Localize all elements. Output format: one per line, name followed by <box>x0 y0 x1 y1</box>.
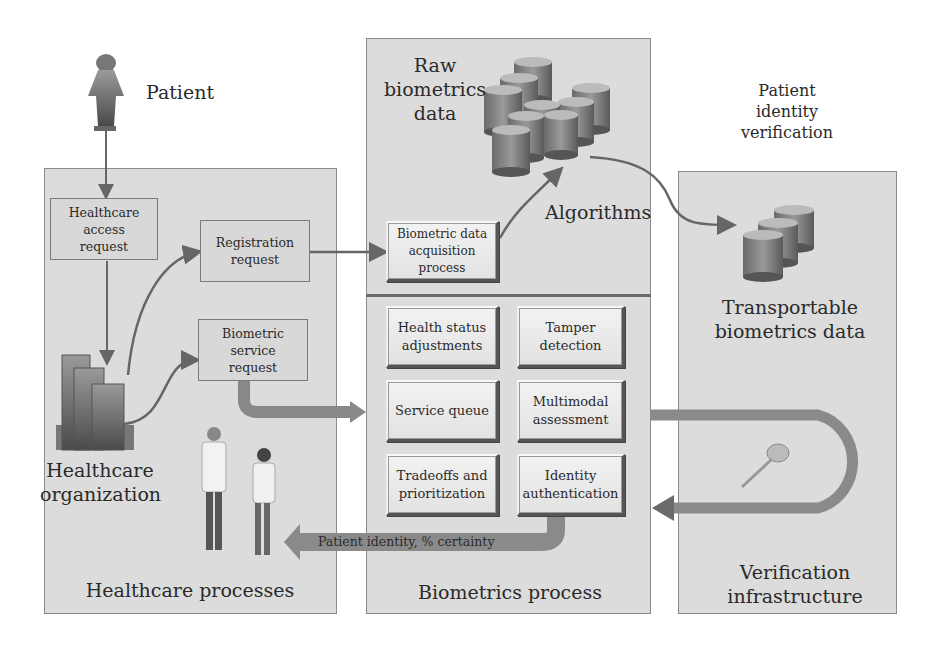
patient-label: Patient <box>145 80 215 104</box>
module-tamper-detection[interactable]: Tamper detection <box>517 306 625 368</box>
biometric-data-acquisition-box[interactable]: Biometric data acquisition process <box>386 221 499 282</box>
biometrics-panel-divider <box>366 294 651 297</box>
healthcare-access-request-box[interactable]: Healthcare access request <box>50 198 158 260</box>
biometrics-process-title: Biometrics process <box>400 580 620 604</box>
algorithms-label: Algorithms <box>545 200 645 224</box>
module-multimodal-assessment[interactable]: Multimodal assessment <box>517 380 625 442</box>
raw-biometrics-data-label: Raw biometrics data <box>380 53 490 125</box>
module-identity-authentication[interactable]: Identity authentication <box>517 454 625 516</box>
module-service-queue[interactable]: Service queue <box>386 380 499 442</box>
module-health-status-adjustments[interactable]: Health status adjustments <box>386 306 499 368</box>
healthcare-organization-label: Healthcare organization <box>40 458 160 506</box>
module-tradeoffs-prioritization[interactable]: Tradeoffs and prioritization <box>386 454 499 516</box>
verification-infrastructure-panel <box>678 171 897 614</box>
person-icon <box>88 54 124 131</box>
transportable-biometrics-data-label: Transportable biometrics data <box>700 295 880 343</box>
registration-request-box[interactable]: Registration request <box>200 220 310 282</box>
verification-infrastructure-title: Verification infrastructure <box>720 560 870 608</box>
healthcare-processes-title: Healthcare processes <box>80 578 300 602</box>
biometric-service-request-box[interactable]: Biometric service request <box>198 319 308 381</box>
patient-identity-verification-label: Patient identity verification <box>722 80 852 143</box>
patient-identity-certainty-label: Patient identity, % certainty <box>318 534 518 550</box>
